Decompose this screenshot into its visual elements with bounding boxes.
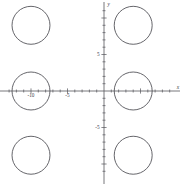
x-tick-label: -10: [28, 92, 35, 98]
x-axis-name-label: x: [176, 84, 180, 90]
circle-bottom-right: [114, 136, 152, 174]
y-tick-label: -5: [95, 124, 100, 130]
circle-bottom-left: [12, 136, 50, 174]
circle-top-left: [12, 6, 50, 44]
x-tick-label: -5: [65, 92, 70, 98]
y-tick-label: 5: [97, 51, 100, 57]
plot-canvas: -10-55-5xy: [0, 0, 185, 186]
y-axis-name-label: y: [106, 1, 110, 7]
circle-top-right: [114, 6, 152, 44]
coordinate-plane-figure: -10-55-5xy: [0, 0, 185, 186]
